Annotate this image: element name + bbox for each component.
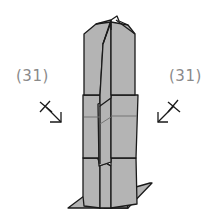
tower-lower-section: [83, 158, 137, 208]
right-annotation: [158, 100, 180, 122]
origami-diagram: [0, 0, 216, 215]
step-reference-left: (31): [16, 69, 49, 84]
left-annotation: [40, 101, 61, 122]
tower-upper-section: [84, 22, 135, 106]
arrow-down-left-icon: [158, 106, 174, 122]
arrow-down-right-icon: [46, 107, 61, 122]
tower-middle-section: [83, 95, 138, 166]
step-reference-right: (31): [169, 69, 202, 84]
